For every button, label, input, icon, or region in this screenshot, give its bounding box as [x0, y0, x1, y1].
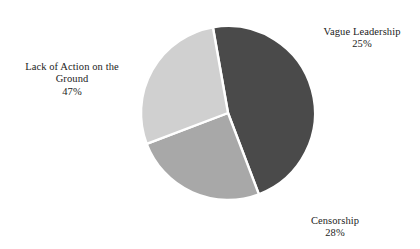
slice-label-lack-of-action: Lack of Action on the Ground 47% [10, 60, 134, 99]
slice-label-censorship: Censorship 28% [292, 214, 378, 241]
slice-label-value: 28% [295, 227, 375, 239]
slice-label-vague-leadership: Vague Leadership 25% [305, 25, 419, 52]
slice-label-name: Lack of Action on the Ground [13, 61, 131, 86]
slice-label-value: 47% [13, 86, 131, 98]
slice-label-name: Censorship [295, 215, 375, 227]
pie-slices-group [141, 26, 315, 200]
slice-label-name: Vague Leadership [308, 26, 416, 38]
pie-chart-figure: Lack of Action on the Ground 47% Vague L… [0, 0, 420, 249]
slice-label-value: 25% [308, 38, 416, 50]
